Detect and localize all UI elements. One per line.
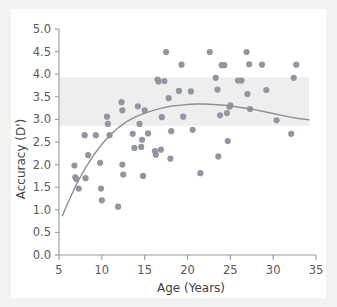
data-point [140,173,146,179]
data-point [76,185,82,191]
x-axis-title: Age (Years) [157,281,225,295]
data-point [115,204,121,210]
data-point [153,152,159,158]
data-point [71,162,77,168]
data-point [176,88,182,94]
y-tick-label: 1.0 [33,203,51,217]
data-point [93,132,99,138]
y-axis-title: Accuracy (D') [14,119,28,200]
y-tick-label: 0.5 [33,225,51,239]
data-point [246,61,252,67]
data-point [273,117,279,123]
data-point [207,49,213,55]
x-axis-tick-labels: 5101520253035 [55,263,323,277]
tick-marks [55,29,316,260]
y-tick-label: 3.5 [33,90,51,104]
data-point [225,138,231,144]
data-point [213,75,219,81]
data-point [168,128,174,134]
data-point [82,132,88,138]
y-tick-label: 2.0 [33,158,51,172]
x-tick-label: 30 [266,263,281,277]
figure-panel: 0.00.51.01.52.02.53.03.54.04.55.0 510152… [11,9,326,298]
data-point [263,87,269,93]
data-point [98,185,104,191]
data-point [161,78,167,84]
data-point [197,170,203,176]
data-point [217,112,223,118]
data-point [259,62,265,68]
data-point [159,114,165,120]
x-tick-label: 15 [137,263,152,277]
x-tick-label: 5 [55,263,62,277]
data-point [190,127,196,133]
data-point [167,156,173,162]
data-point [244,49,250,55]
x-tick-label: 10 [95,263,110,277]
data-point [120,171,126,177]
data-point [85,152,91,158]
y-tick-label: 4.5 [33,45,51,59]
data-point [158,147,164,153]
x-tick-label: 25 [223,263,238,277]
data-point [82,175,88,181]
x-tick-label: 20 [180,263,195,277]
data-point [238,77,244,83]
data-point [138,144,144,150]
data-point [163,49,169,55]
data-point [139,137,145,143]
y-tick-label: 2.5 [33,135,51,149]
y-tick-label: 0.0 [33,248,51,262]
data-point [291,75,297,81]
data-point [166,95,172,101]
data-point [214,86,220,92]
data-point [288,131,294,137]
data-points [71,49,299,210]
data-point [155,78,161,84]
data-point [221,62,227,68]
data-point [178,62,184,68]
data-point [105,121,111,127]
y-tick-label: 5.0 [33,22,51,36]
y-axis-tick-labels: 0.00.51.01.52.02.53.03.54.04.55.0 [33,22,51,262]
data-point [293,62,299,68]
data-point [188,88,194,94]
y-tick-label: 3.0 [33,112,51,126]
data-point [131,145,137,151]
data-point [119,162,125,168]
y-tick-label: 1.5 [33,180,51,194]
data-point [215,153,221,159]
data-point [180,114,186,120]
y-tick-label: 4.0 [33,67,51,81]
x-tick-label: 35 [309,263,324,277]
data-point [97,160,103,166]
data-point [136,121,142,127]
data-point [119,107,125,113]
data-point [130,131,136,137]
data-point [145,130,151,136]
data-point [224,110,230,116]
data-point [118,99,124,105]
axes [59,29,316,255]
scatter-plot: 0.00.51.01.52.02.53.03.54.04.55.0 510152… [11,9,326,298]
data-point [244,91,250,97]
data-point [135,103,141,109]
data-point [104,114,110,120]
data-point [99,197,105,203]
